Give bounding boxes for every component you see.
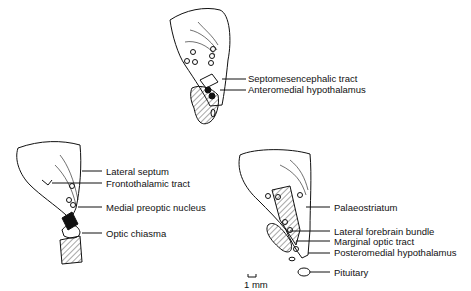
label-septomesencephalic-tract: Septomesencephalic tract bbox=[248, 73, 357, 84]
top-brain-section bbox=[170, 8, 246, 123]
label-medial-preoptic-nucleus: Medial preoptic nucleus bbox=[106, 202, 206, 213]
left-brain-section bbox=[17, 142, 102, 264]
label-palaeostriatum: Palaeostriatum bbox=[334, 202, 397, 213]
label-pituitary: Pituitary bbox=[334, 267, 368, 278]
label-frontothalamic-tract: Frontothalamic tract bbox=[106, 178, 190, 189]
label-optic-chiasma: Optic chiasma bbox=[106, 228, 166, 239]
label-lateral-septum: Lateral septum bbox=[106, 166, 169, 177]
scale-bar-label: 1 mm bbox=[244, 279, 268, 290]
brain-section-diagram: Septomesencephalic tract Anteromedial hy… bbox=[0, 0, 471, 291]
scale-bar-icon bbox=[248, 274, 256, 277]
right-brain-section bbox=[239, 150, 330, 277]
label-anteromedial-hypothalamus: Anteromedial hypothalamus bbox=[248, 84, 366, 95]
label-marginal-optic-tract: Marginal optic tract bbox=[334, 236, 414, 247]
label-posteromedial-hypothalamus: Posteromedial hypothalamus bbox=[334, 247, 457, 258]
